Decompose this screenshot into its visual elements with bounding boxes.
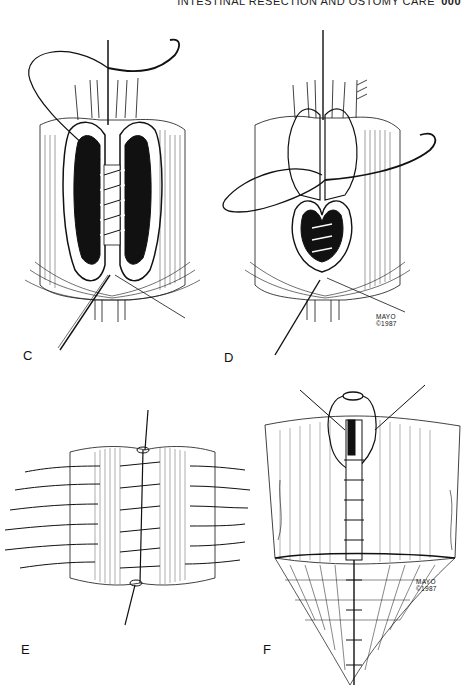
figure-panel-e: E [0, 380, 260, 680]
figure-panel-d: MAYO ©1987 D [215, 0, 469, 370]
copyright-year: ©1987 [376, 320, 397, 327]
figure-label-e: E [21, 642, 30, 657]
copyright-mayo: MAYO [376, 313, 397, 320]
illustration-e [0, 380, 260, 680]
illustration-c [0, 0, 230, 370]
copyright-mark-f: MAYO ©1987 [416, 578, 437, 592]
illustration-d [215, 0, 469, 370]
copyright-year: ©1987 [416, 585, 437, 592]
figure-label-f: F [263, 642, 271, 657]
copyright-mark-d: MAYO ©1987 [376, 313, 397, 327]
figure-label-c: C [23, 348, 32, 363]
figure-panel-c: C [0, 0, 230, 370]
illustration-f [260, 380, 469, 691]
figure-panel-f: MAYO ©1987 F [260, 380, 469, 691]
copyright-mayo: MAYO [416, 578, 437, 585]
figure-label-d: D [224, 350, 233, 365]
